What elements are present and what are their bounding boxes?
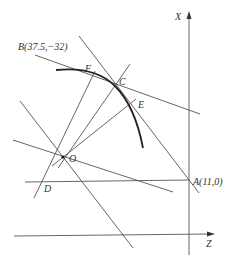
point-b-label: B(37.5,−32) [18, 41, 68, 53]
point-o [61, 155, 64, 158]
line-bc [35, 55, 200, 114]
line-dof [34, 71, 95, 198]
line-oe [52, 99, 136, 166]
x-axis-label: X [174, 11, 182, 22]
point-c-label: C [119, 76, 126, 87]
z-axis [14, 232, 215, 237]
line-o-right [13, 140, 173, 192]
line-o-diagonal [20, 101, 133, 248]
line-through-a [25, 180, 189, 182]
point-d-label: D [43, 183, 52, 194]
point-o-label: O [69, 153, 76, 164]
z-axis-label: Z [206, 238, 212, 249]
point-f-label: F [84, 63, 92, 74]
point-e-label: E [137, 99, 144, 110]
geometry-diagram: X Z B(37.5,−32) A(11,0) O C E F D [0, 0, 233, 265]
line-c-steep [79, 36, 199, 193]
z-axis-arrow-icon [207, 232, 215, 237]
x-axis [187, 11, 192, 255]
x-axis-arrow-icon [187, 11, 192, 19]
point-a-label: A(11,0) [192, 176, 223, 188]
